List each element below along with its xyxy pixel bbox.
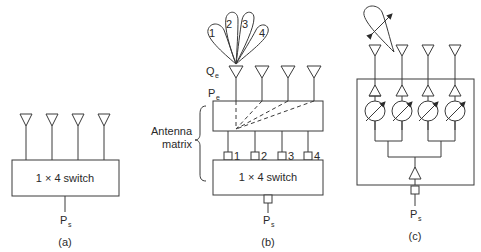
svg-text:P: P xyxy=(410,208,417,220)
antenna-icon xyxy=(281,66,295,101)
beam-label: 1 xyxy=(209,27,215,39)
caption-b: (b) xyxy=(261,236,274,248)
port-connector-icon xyxy=(224,152,232,160)
phase-shifter-icon xyxy=(445,101,465,121)
caption-c: (c) xyxy=(409,230,422,242)
svg-text:matrix: matrix xyxy=(162,138,192,150)
panel-a: 1 × 4 switch P s (a) xyxy=(12,114,119,248)
svg-text:Antenna: Antenna xyxy=(151,125,193,137)
antenna-matrix-box xyxy=(213,101,323,131)
phase-shifter-icon xyxy=(365,101,385,121)
input-label-b: P s xyxy=(263,214,275,228)
antenna-icon xyxy=(307,66,321,101)
antenna-array-c xyxy=(369,45,461,79)
svg-text:P: P xyxy=(208,87,215,99)
switch-box-a: 1 × 4 switch xyxy=(12,160,119,196)
port-connector-icon xyxy=(264,195,272,203)
input-label-c: P s xyxy=(410,208,422,222)
svg-text:s: s xyxy=(271,221,275,228)
port-connector-icon xyxy=(278,152,286,160)
switch-box-b: 1 × 4 switch xyxy=(213,160,323,195)
port-connector-icon xyxy=(251,152,259,160)
beam-switching-diagram: 1 × 4 switch P s (a) 1 2 3 4 Q e P e xyxy=(0,0,481,252)
beam-lobes: 1 2 3 4 xyxy=(208,12,268,64)
port-connector-icon xyxy=(411,186,419,194)
antenna-icon xyxy=(422,45,434,79)
steering-arrow-icon xyxy=(372,14,392,34)
beam-label: 4 xyxy=(259,27,265,39)
switch-label: 1 × 4 switch xyxy=(36,172,94,184)
phase-shifter-icon xyxy=(392,101,412,121)
port-connector-icon xyxy=(304,152,312,160)
antenna-icon xyxy=(229,66,243,101)
phase-shifter-icon xyxy=(418,101,438,121)
svg-text:P: P xyxy=(263,214,270,226)
antenna-array-b xyxy=(229,66,321,101)
panel-c: P s (c) xyxy=(357,6,474,242)
svg-text:s: s xyxy=(68,221,72,228)
antenna-icon xyxy=(396,45,408,79)
matrix-label: Antenna matrix xyxy=(151,125,193,150)
brace-icon xyxy=(195,106,206,181)
svg-text:s: s xyxy=(418,215,422,222)
caption-a: (a) xyxy=(58,236,71,248)
port-label: P e xyxy=(208,87,220,101)
svg-text:Q: Q xyxy=(206,65,215,77)
antenna-icon xyxy=(255,66,269,101)
antenna-icon xyxy=(449,45,461,79)
svg-text:e: e xyxy=(216,94,220,101)
antenna-icon xyxy=(369,45,381,79)
element-label: Q e xyxy=(206,65,219,79)
svg-text:e: e xyxy=(215,72,219,79)
panel-b: 1 2 3 4 Q e P e xyxy=(151,12,323,248)
antenna-array-a xyxy=(20,114,110,160)
beam-label: 3 xyxy=(242,18,248,30)
input-label-a: P s xyxy=(60,214,72,228)
antenna-icon xyxy=(98,114,110,160)
svg-text:P: P xyxy=(60,214,67,226)
switch-label: 1 × 4 switch xyxy=(239,171,297,183)
beam-label: 2 xyxy=(226,18,232,30)
antenna-icon xyxy=(46,114,58,160)
antenna-icon xyxy=(20,114,32,160)
antenna-icon xyxy=(72,114,84,160)
